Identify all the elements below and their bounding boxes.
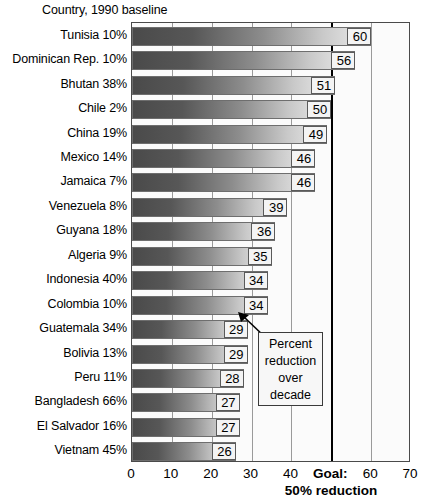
bar-row: 26 <box>132 442 411 461</box>
bar <box>132 76 335 95</box>
bar-value-label: 26 <box>212 443 236 460</box>
category-label: Bangladesh 66% <box>0 394 127 408</box>
bar-value-label: 27 <box>216 394 240 411</box>
category-label: Indonesia 40% <box>0 272 127 286</box>
category-label: Chile 2% <box>0 101 127 115</box>
bar <box>132 173 315 192</box>
x-tick-0: 0 <box>127 466 135 482</box>
bar <box>132 51 355 70</box>
bar-row: 51 <box>132 76 411 95</box>
x-tick-60: 60 <box>363 466 378 482</box>
bar-value-label: 56 <box>331 52 355 69</box>
bar-row: 27 <box>132 418 411 437</box>
bar-value-label: 29 <box>224 321 248 338</box>
bar-value-label: 46 <box>291 150 315 167</box>
bar-row: 60 <box>132 27 411 46</box>
bar-value-label: 34 <box>244 297 268 314</box>
bar-value-label: 39 <box>263 199 287 216</box>
category-label: Vietnam 45% <box>0 443 127 457</box>
category-label: Venezuela 8% <box>0 199 127 213</box>
category-label: China 19% <box>0 126 127 140</box>
category-label: Jamaica 7% <box>0 174 127 188</box>
bar <box>132 149 315 168</box>
goal-sublabel: 50% reduction <box>285 483 377 499</box>
bar-row: 46 <box>132 173 411 192</box>
category-label: Mexico 14% <box>0 150 127 164</box>
category-label: El Salvador 16% <box>0 419 127 433</box>
clipped-chart-title <box>0 0 423 1</box>
value-axis-labels: 010203040Goal:6070 <box>0 466 423 484</box>
category-label: Dominican Rep. 10% <box>0 52 127 66</box>
bar-row: 46 <box>132 149 411 168</box>
category-label: Colombia 10% <box>0 297 127 311</box>
x-tick-50: Goal: <box>313 466 348 482</box>
category-label: Peru 11% <box>0 370 127 384</box>
bar-value-label: 27 <box>216 419 240 436</box>
x-tick-10: 10 <box>163 466 178 482</box>
category-label: Guyana 18% <box>0 223 127 237</box>
bar-value-label: 46 <box>291 174 315 191</box>
bar-value-label: 51 <box>311 77 335 94</box>
bar-row: 49 <box>132 125 411 144</box>
bar <box>132 125 327 144</box>
bar-value-label: 28 <box>220 370 244 387</box>
category-label: Tunisia 10% <box>0 28 127 42</box>
callout-line: Percent <box>259 336 322 353</box>
bar-row: 35 <box>132 247 411 266</box>
bar-value-label: 36 <box>251 223 275 240</box>
callout-annotation: Percentreductionoverdecade <box>258 332 323 406</box>
bar-value-label: 60 <box>347 28 371 45</box>
bar-row: 39 <box>132 198 411 217</box>
category-label: Bolivia 13% <box>0 346 127 360</box>
x-tick-40: 40 <box>283 466 298 482</box>
callout-line: reduction <box>259 353 322 370</box>
bar-row: 56 <box>132 51 411 70</box>
bar-value-label: 50 <box>307 101 331 118</box>
bar-value-label: 34 <box>244 272 268 289</box>
category-label: Bhutan 38% <box>0 77 127 91</box>
x-tick-20: 20 <box>203 466 218 482</box>
bar-row: 36 <box>132 222 411 241</box>
bar-value-label: 35 <box>248 248 272 265</box>
category-label: Guatemala 34% <box>0 321 127 335</box>
callout-line: decade <box>259 387 322 404</box>
bar-row: 34 <box>132 271 411 290</box>
bar-value-label: 29 <box>224 346 248 363</box>
bar-row: 50 <box>132 100 411 119</box>
category-label: Algeria 9% <box>0 248 127 262</box>
bar <box>132 100 331 119</box>
axis-caption: Country, 1990 baseline <box>42 3 167 17</box>
bar-row: 34 <box>132 296 411 315</box>
callout-line: over <box>259 370 322 387</box>
bar <box>132 27 371 46</box>
x-tick-70: 70 <box>402 466 417 482</box>
bar-value-label: 49 <box>303 126 327 143</box>
x-tick-30: 30 <box>243 466 258 482</box>
